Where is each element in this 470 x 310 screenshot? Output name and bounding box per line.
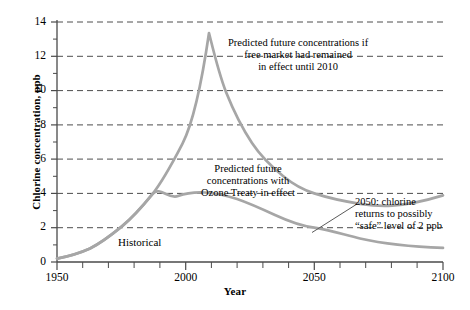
x-tick-label-2050: 2050 <box>287 271 341 283</box>
y-tick-label-2: 2 <box>20 220 46 232</box>
ozone-treaty-annotation: Predicted future concentrations with Ozo… <box>201 163 295 199</box>
y-tick-label-6: 6 <box>20 152 46 164</box>
y-tick-label-4: 4 <box>20 186 46 198</box>
free-market-annotation-line1: Predicted future concentrations if <box>228 37 368 49</box>
safe-level-leader-line <box>312 204 357 233</box>
y-axis-title: Chlorine concentration, ppb <box>30 42 42 242</box>
x-axis-title: Year <box>200 285 270 297</box>
safe-level-annotation-line1: 2050: chlorine <box>355 196 442 208</box>
safe-level-annotation: 2050: chlorine returns to possibly “safe… <box>355 196 442 232</box>
y-tick-label-14: 14 <box>20 15 46 27</box>
x-tick-label-2100: 2100 <box>416 271 470 283</box>
safe-level-annotation-line3: “safe” level of 2 ppb <box>355 220 442 232</box>
y-tick-label-0: 0 <box>20 255 46 267</box>
y-tick-label-10: 10 <box>20 83 46 95</box>
free-market-annotation-line3: in effect until 2010 <box>228 61 368 73</box>
y-tick-label-8: 8 <box>20 118 46 130</box>
ozone-treaty-annotation-line1: Predicted future <box>201 163 295 175</box>
x-tick-label-2000: 2000 <box>159 271 213 283</box>
free-market-annotation-line2: free market had remained <box>228 49 368 61</box>
ozone-treaty-annotation-line3: Ozone Treaty in effect <box>201 187 295 199</box>
x-tick-label-1950: 1950 <box>30 271 84 283</box>
y-tick-label-12: 12 <box>20 49 46 61</box>
chlorine-concentration-chart: Chlorine concentration, ppb Year 14 12 1… <box>0 0 470 310</box>
x-major-ticks <box>57 262 443 270</box>
ozone-treaty-annotation-line2: concentrations with <box>201 175 295 187</box>
safe-level-annotation-line2: returns to possibly <box>355 208 442 220</box>
historical-annotation: Historical <box>118 236 161 248</box>
x-minor-ticks <box>83 262 417 268</box>
free-market-annotation: Predicted future concentrations if free … <box>228 37 368 73</box>
